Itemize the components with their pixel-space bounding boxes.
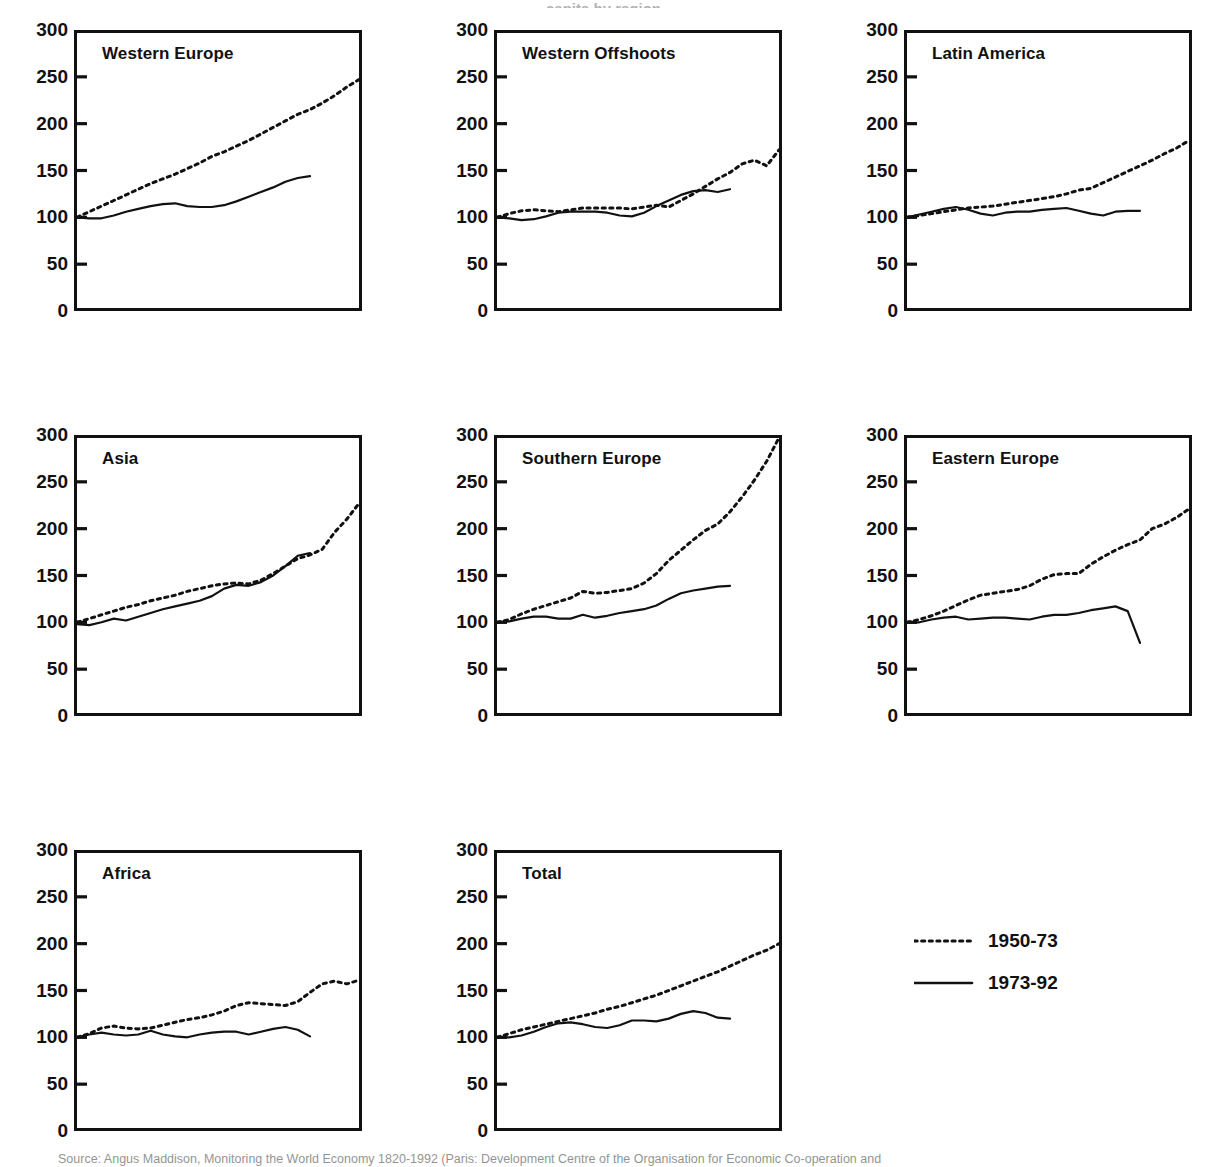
chart-legend: 1950-731973-92	[904, 930, 1192, 1050]
y-tick-label: 150	[36, 161, 68, 180]
y-tick-label: 150	[36, 981, 68, 1000]
panel-title: Southern Europe	[522, 449, 661, 469]
y-tick-label: 150	[866, 566, 898, 585]
y-tick-label: 0	[477, 706, 488, 725]
y-tick-label: 100	[456, 612, 488, 631]
series-line-1950-73	[77, 503, 359, 622]
y-tick-label: 300	[456, 20, 488, 39]
y-tick-label: 0	[887, 706, 898, 725]
legend-label: 1973-92	[988, 972, 1058, 994]
panel-title: Africa	[102, 864, 151, 884]
legend-key-solid-icon	[914, 977, 974, 989]
y-tick-label: 300	[36, 20, 68, 39]
y-axis-labels: 300250200150100500	[12, 435, 68, 716]
y-axis-labels: 300250200150100500	[842, 435, 898, 716]
y-tick-label: 200	[36, 934, 68, 953]
y-tick-label: 50	[467, 1074, 488, 1093]
y-tick-label: 300	[36, 840, 68, 859]
y-tick-label: 0	[57, 1121, 68, 1140]
plot-area	[494, 30, 782, 311]
y-tick-label: 250	[456, 472, 488, 491]
y-tick-label: 0	[887, 301, 898, 320]
y-tick-label: 100	[456, 207, 488, 226]
y-axis-labels: 300250200150100500	[432, 435, 488, 716]
y-tick-label: 50	[47, 659, 68, 678]
y-tick-label: 250	[456, 887, 488, 906]
figure-root: capita by region 300250200150100500Weste…	[0, 0, 1207, 1167]
series-line-1973-92	[77, 176, 310, 218]
y-tick-label: 100	[36, 207, 68, 226]
panel-title: Eastern Europe	[932, 449, 1059, 469]
series-line-1950-73	[497, 944, 779, 1038]
y-tick-label: 100	[36, 612, 68, 631]
y-axis-labels: 300250200150100500	[12, 30, 68, 311]
y-tick-label: 50	[47, 254, 68, 273]
figure-source-note: Source: Angus Maddison, Monitoring the W…	[58, 1152, 1198, 1166]
y-tick-label: 250	[36, 472, 68, 491]
y-axis-labels: 300250200150100500	[432, 850, 488, 1131]
y-tick-label: 0	[57, 301, 68, 320]
panel-title: Total	[522, 864, 562, 884]
y-tick-label: 200	[36, 519, 68, 538]
plot-area	[494, 850, 782, 1131]
y-tick-label: 300	[36, 425, 68, 444]
y-tick-label: 100	[866, 612, 898, 631]
y-tick-label: 250	[866, 472, 898, 491]
y-tick-label: 50	[47, 1074, 68, 1093]
series-line-1973-92	[907, 207, 1140, 217]
figure-top-title: capita by region	[0, 0, 1207, 8]
plot-area	[74, 435, 362, 716]
y-tick-label: 0	[477, 1121, 488, 1140]
y-axis-labels: 300250200150100500	[432, 30, 488, 311]
legend-label: 1950-73	[988, 930, 1058, 952]
y-tick-label: 200	[866, 519, 898, 538]
y-tick-label: 300	[866, 20, 898, 39]
y-axis-labels: 300250200150100500	[842, 30, 898, 311]
y-tick-label: 50	[877, 659, 898, 678]
series-line-1950-73	[907, 509, 1189, 622]
y-tick-label: 300	[456, 425, 488, 444]
y-tick-label: 250	[36, 67, 68, 86]
y-tick-label: 50	[877, 254, 898, 273]
y-tick-label: 150	[456, 566, 488, 585]
y-tick-label: 300	[866, 425, 898, 444]
y-tick-label: 50	[467, 254, 488, 273]
series-line-1973-92	[497, 1011, 730, 1037]
y-tick-label: 200	[456, 519, 488, 538]
series-line-1950-73	[497, 150, 779, 217]
plot-area	[904, 435, 1192, 716]
series-line-1973-92	[497, 189, 730, 220]
plot-area	[74, 30, 362, 311]
y-tick-label: 100	[36, 1027, 68, 1046]
y-tick-label: 200	[866, 114, 898, 133]
y-tick-label: 150	[866, 161, 898, 180]
legend-item-1973-92: 1973-92	[914, 972, 1058, 994]
y-tick-label: 200	[36, 114, 68, 133]
y-tick-label: 200	[456, 934, 488, 953]
legend-item-1950-73: 1950-73	[914, 930, 1058, 952]
series-line-1973-92	[77, 1027, 310, 1037]
y-tick-label: 0	[57, 706, 68, 725]
panel-title: Western Europe	[102, 44, 233, 64]
plot-area	[494, 435, 782, 716]
y-tick-label: 150	[456, 161, 488, 180]
plot-area	[74, 850, 362, 1131]
y-tick-label: 250	[456, 67, 488, 86]
y-tick-label: 250	[866, 67, 898, 86]
plot-area	[904, 30, 1192, 311]
series-line-1950-73	[77, 980, 359, 1037]
panel-title: Asia	[102, 449, 138, 469]
y-tick-label: 50	[467, 659, 488, 678]
y-tick-label: 200	[456, 114, 488, 133]
y-tick-label: 150	[36, 566, 68, 585]
y-tick-label: 150	[456, 981, 488, 1000]
y-tick-label: 0	[477, 301, 488, 320]
y-axis-labels: 300250200150100500	[12, 850, 68, 1131]
panel-title: Western Offshoots	[522, 44, 675, 64]
panel-title: Latin America	[932, 44, 1045, 64]
y-tick-label: 100	[456, 1027, 488, 1046]
y-tick-label: 300	[456, 840, 488, 859]
y-tick-label: 250	[36, 887, 68, 906]
series-line-1950-73	[907, 141, 1189, 218]
y-tick-label: 100	[866, 207, 898, 226]
